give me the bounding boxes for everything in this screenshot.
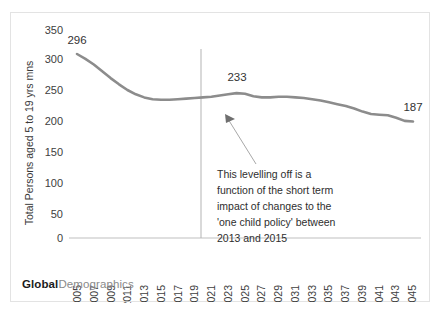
y-tick-label: 300 bbox=[45, 53, 63, 65]
y-tick-label: 100 bbox=[45, 177, 63, 189]
x-tick-label: 2039 bbox=[356, 285, 368, 303]
population-line bbox=[77, 54, 413, 122]
annotation-line: impact of changes to the bbox=[217, 200, 332, 212]
data-label-end: 187 bbox=[403, 101, 422, 113]
x-tick-label: 2029 bbox=[272, 285, 284, 303]
y-tick-label: 250 bbox=[45, 84, 63, 96]
annotation-line: function of the short term bbox=[217, 184, 333, 196]
x-tick-label: 2017 bbox=[172, 285, 184, 303]
data-label-peak: 233 bbox=[227, 71, 246, 83]
x-tick-label: 2045 bbox=[406, 285, 418, 303]
y-axis-title: Total Persons aged 5 to 19 yrs mns bbox=[23, 61, 35, 226]
brand-light: Demographics bbox=[58, 278, 133, 290]
x-tick-label: 2025 bbox=[239, 285, 251, 303]
chart-plot-area: 350 300 250 200 150 100 50 0 Total Perso… bbox=[11, 13, 431, 303]
brand-logo: GlobalDemographics bbox=[22, 278, 134, 290]
x-tick-label: 2013 bbox=[138, 285, 150, 303]
y-tick-label: 200 bbox=[45, 115, 63, 127]
x-tick-label: 2015 bbox=[155, 285, 167, 303]
y-tick-label: 50 bbox=[51, 208, 63, 220]
y-tick-label: 150 bbox=[45, 146, 63, 158]
line-chart-svg: 350 300 250 200 150 100 50 0 Total Perso… bbox=[11, 13, 431, 303]
annotation-text: This levelling off is a function of the … bbox=[217, 168, 336, 244]
y-tick-label: 0 bbox=[57, 232, 63, 244]
x-tick-label: 2041 bbox=[373, 285, 385, 303]
annotation-line: 2013 and 2015 bbox=[217, 232, 287, 244]
x-tick-label: 2035 bbox=[322, 285, 334, 303]
y-tick-label: 350 bbox=[45, 24, 63, 36]
y-axis-ticks: 350 300 250 200 150 100 50 0 bbox=[45, 24, 63, 244]
chart-card: 350 300 250 200 150 100 50 0 Total Perso… bbox=[10, 12, 430, 302]
brand-bold: Global bbox=[22, 278, 58, 290]
annotation-line: 'one child policy' between bbox=[217, 216, 336, 228]
x-tick-label: 2043 bbox=[389, 285, 401, 303]
data-label-start: 296 bbox=[67, 34, 86, 46]
x-tick-label: 2021 bbox=[205, 285, 217, 303]
annotation-arrow bbox=[225, 114, 256, 164]
x-tick-label: 2027 bbox=[255, 285, 267, 303]
x-tick-label: 2023 bbox=[222, 285, 234, 303]
x-tick-label: 2031 bbox=[289, 285, 301, 303]
x-tick-label: 2037 bbox=[339, 285, 351, 303]
x-tick-label: 2033 bbox=[306, 285, 318, 303]
x-tick-label: 2019 bbox=[188, 285, 200, 303]
annotation-line: This levelling off is a bbox=[217, 168, 312, 180]
